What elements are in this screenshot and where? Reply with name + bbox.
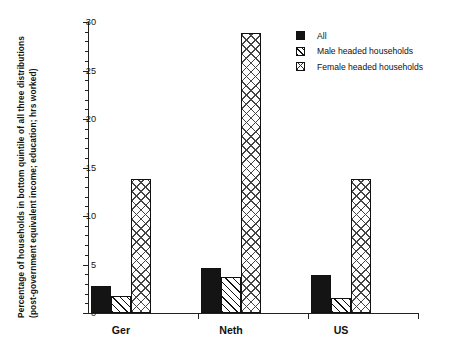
y-tick-minor <box>85 177 88 178</box>
x-axis-line <box>88 313 419 314</box>
y-tick-minor <box>85 284 88 285</box>
y-tick-minor <box>85 80 88 81</box>
bar <box>241 33 261 313</box>
y-tick-minor <box>85 158 88 159</box>
y-tick-minor <box>85 61 88 62</box>
y-tick-minor <box>85 255 88 256</box>
bar <box>91 286 111 313</box>
legend-swatch-icon <box>296 62 305 71</box>
y-tick-label: 5 <box>76 261 96 270</box>
legend-swatch-icon <box>296 31 305 40</box>
y-tick-minor <box>85 187 88 188</box>
chart-legend: AllMale headed householdsFemale headed h… <box>296 28 446 75</box>
y-tick-minor <box>85 226 88 227</box>
bar <box>131 179 151 313</box>
y-tick-minor <box>85 235 88 236</box>
y-tick-minor <box>85 197 88 198</box>
y-tick-minor <box>85 303 88 304</box>
x-tick <box>418 314 419 319</box>
y-tick-minor <box>85 129 88 130</box>
y-tick-minor <box>85 245 88 246</box>
legend-label: All <box>317 31 327 41</box>
y-tick-label: 25 <box>76 67 96 76</box>
bar <box>351 179 371 313</box>
legend-item[interactable]: Female headed households <box>296 59 446 75</box>
y-tick-minor <box>85 41 88 42</box>
bar <box>331 298 351 313</box>
legend-label: Male headed households <box>317 46 413 56</box>
y-tick-minor <box>85 148 88 149</box>
y-axis-title-container: Percentage of households in bottom quint… <box>16 18 62 318</box>
y-tick-label: 15 <box>76 164 96 173</box>
y-tick-minor <box>85 274 88 275</box>
x-axis-group-label: Neth <box>219 324 243 336</box>
y-tick-minor <box>85 138 88 139</box>
y-tick-label: 20 <box>76 115 96 124</box>
bar-chart-figure: Percentage of households in bottom quint… <box>0 0 449 349</box>
legend-item[interactable]: Male headed households <box>296 44 446 60</box>
y-axis-title: Percentage of households in bottom quint… <box>16 18 39 318</box>
bar <box>201 268 221 313</box>
legend-item[interactable]: All <box>296 28 446 44</box>
y-tick-minor <box>85 294 88 295</box>
bar <box>221 277 241 313</box>
y-tick-minor <box>85 100 88 101</box>
y-tick-minor <box>85 206 88 207</box>
x-tick <box>308 314 309 319</box>
y-tick-minor <box>85 51 88 52</box>
legend-swatch-icon <box>296 47 305 56</box>
y-tick-minor <box>85 109 88 110</box>
x-axis-group-label: Ger <box>112 324 130 336</box>
x-axis-group-label: US <box>334 324 349 336</box>
y-tick-label: 10 <box>76 212 96 221</box>
bar <box>111 296 131 313</box>
y-tick-minor <box>85 90 88 91</box>
bar <box>311 275 331 313</box>
legend-label: Female headed households <box>317 62 423 72</box>
y-tick-label: 30 <box>76 18 96 27</box>
y-tick-minor <box>85 32 88 33</box>
x-tick <box>198 314 199 319</box>
